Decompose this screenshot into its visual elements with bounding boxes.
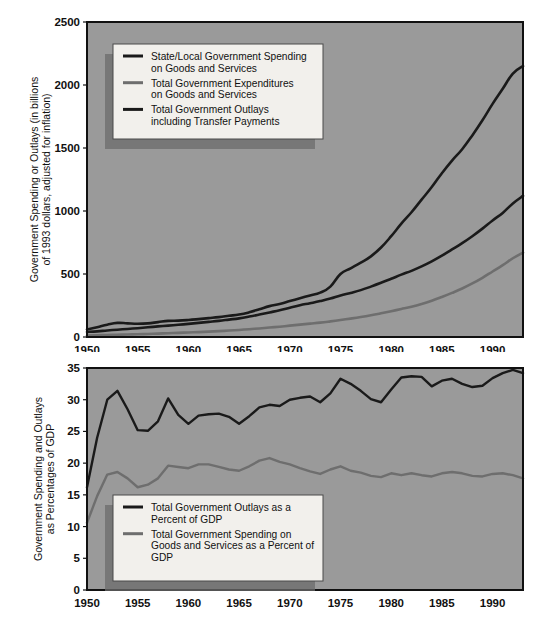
- y-axis-tick-label: 2000: [54, 79, 80, 91]
- top-chart: 0500100015002000250019501955196019651970…: [0, 0, 545, 352]
- legend-label: Goods and Services as a Percent of: [151, 540, 314, 551]
- y-axis-tick-label: 10: [67, 521, 80, 533]
- y-axis-tick-label: 5: [74, 552, 81, 564]
- x-axis-tick-label: 1970: [277, 344, 303, 352]
- y-axis-tick-label: 1000: [54, 205, 80, 217]
- legend-label: Total Government Expenditures: [151, 78, 294, 89]
- legend-label: Percent of GDP: [151, 514, 223, 525]
- y-axis-tick-label: 35: [67, 362, 80, 374]
- bottom-chart: 0510152025303519501955196019651970197519…: [0, 352, 545, 635]
- x-axis-tick-label: 1965: [226, 597, 252, 609]
- x-axis-tick-label: 1965: [226, 344, 252, 352]
- legend-label: on Goods and Services: [151, 89, 257, 100]
- bottom-chart-svg: 0510152025303519501955196019651970197519…: [0, 352, 545, 635]
- legend-label: GDP: [151, 552, 173, 563]
- y-axis-tick-label: 30: [67, 394, 80, 406]
- x-axis-tick-label: 1975: [328, 597, 354, 609]
- y-axis-tick-label: 0: [74, 331, 80, 343]
- legend-label: Total Government Outlays: [151, 104, 269, 115]
- legend-label: on Goods and Services: [151, 63, 257, 74]
- legend-label: Total Government Spending on: [151, 529, 291, 540]
- x-axis-tick-label: 1985: [429, 344, 455, 352]
- x-axis-tick-label: 1960: [176, 344, 202, 352]
- x-axis-tick-label: 1975: [328, 344, 354, 352]
- x-axis-tick-label: 1985: [429, 597, 455, 609]
- x-axis-tick-label: 1960: [176, 597, 202, 609]
- y-axis-tick-label: 1500: [54, 142, 80, 154]
- y-axis-label-line2: as Percentages of GDP: [44, 424, 56, 534]
- x-axis-tick-label: 1950: [74, 344, 100, 352]
- x-axis-tick-label: 1990: [480, 597, 506, 609]
- x-axis-tick-label: 1990: [480, 344, 506, 352]
- x-axis-tick-label: 1980: [378, 344, 404, 352]
- y-axis-tick-label: 25: [67, 425, 80, 437]
- top-chart-svg: 0500100015002000250019501955196019651970…: [0, 0, 545, 352]
- legend-label: Total Government Outlays as a: [151, 502, 291, 513]
- y-axis-label-line1: Government Spending or Outlays (in billi…: [28, 77, 40, 282]
- x-axis-tick-label: 1955: [125, 597, 151, 609]
- legend-label: State/Local Government Spending: [151, 51, 307, 62]
- x-axis-tick-label: 1970: [277, 597, 303, 609]
- y-axis-tick-label: 2500: [54, 16, 80, 28]
- y-axis-label: Government Spending or Outlays (in billi…: [28, 77, 52, 282]
- y-axis-label: Government Spending and Outlaysas Percen…: [32, 397, 56, 561]
- y-axis-label-line2: of 1993 dollars, adjusted for inflation): [40, 93, 52, 265]
- x-axis-tick-label: 1980: [378, 597, 404, 609]
- x-axis-tick-label: 1950: [74, 597, 100, 609]
- y-axis-tick-label: 15: [67, 489, 80, 501]
- legend-label: including Transfer Payments: [151, 116, 280, 127]
- y-axis-label-line1: Government Spending and Outlays: [32, 397, 44, 561]
- x-axis-tick-label: 1955: [125, 344, 151, 352]
- y-axis-tick-label: 500: [61, 268, 80, 280]
- y-axis-tick-label: 0: [74, 584, 80, 596]
- y-axis-tick-label: 20: [67, 457, 80, 469]
